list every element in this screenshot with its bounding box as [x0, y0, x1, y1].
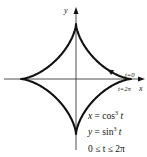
astroid-diagram: x y t=0 t=2π x = cos3 t y = sin3 t 0 ≤ t… — [0, 0, 147, 157]
t-end-label: t=2π — [118, 85, 131, 92]
x-axis-arrowhead-icon — [138, 77, 145, 82]
equation-y: y = sin3 t — [87, 126, 122, 137]
x-axis-label: x — [138, 84, 143, 93]
equation-x: x = cos3 t — [87, 110, 123, 121]
parameter-range: 0 ≤ t ≤ 2π — [88, 144, 125, 154]
t-start-label: t=0 — [125, 71, 135, 78]
y-axis-arrowhead-icon — [74, 7, 79, 14]
y-axis-label: y — [63, 6, 68, 15]
